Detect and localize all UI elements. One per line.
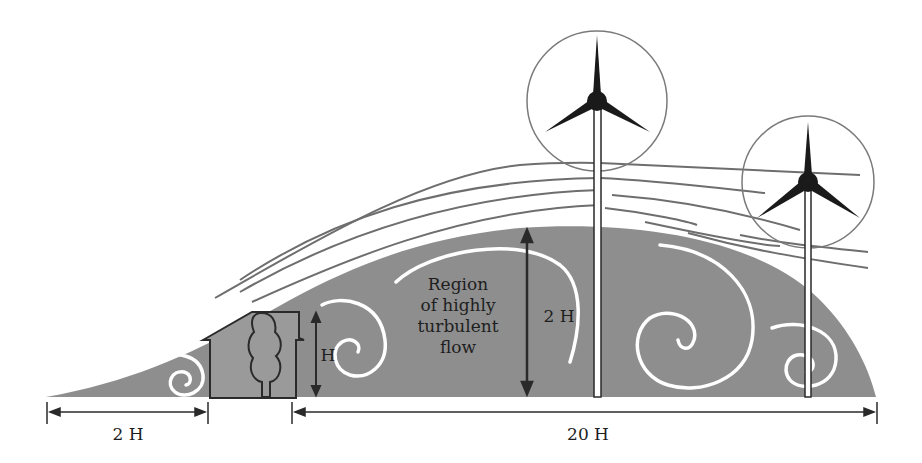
distance-20h-arrow xyxy=(292,402,877,424)
upwind-distance-label: 2 H xyxy=(112,424,143,444)
distance-2h-arrow xyxy=(47,402,208,424)
height-2h-label: 2 H xyxy=(543,306,574,326)
region-label-line3: turbulent xyxy=(417,316,498,336)
obstacle-height-label: H xyxy=(321,345,336,365)
downwind-distance-label: 20 H xyxy=(567,424,609,444)
region-label-line2: of highly xyxy=(420,295,496,315)
turbulence-diagram: Region of highly turbulent flow 2 H H 2 … xyxy=(0,0,922,463)
region-label-line4: flow xyxy=(440,337,477,357)
region-label-line1: Region xyxy=(428,274,488,294)
